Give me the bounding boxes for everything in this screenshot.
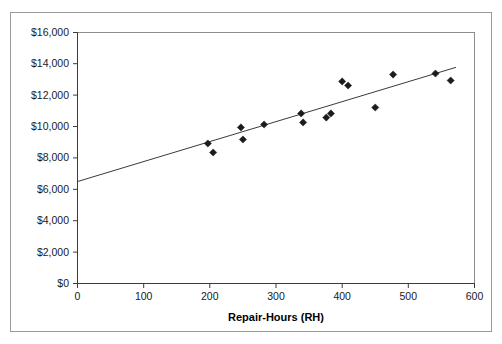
x-tick-label-0: 0 <box>75 290 81 302</box>
data-point <box>260 121 267 128</box>
data-point <box>390 71 397 78</box>
figure-container: $0 $2,000 $4,000 $6,000 $8,000 $10,000 $… <box>0 0 502 344</box>
data-point <box>345 82 352 89</box>
data-point <box>237 124 244 131</box>
data-point <box>372 104 379 111</box>
data-point <box>298 110 305 117</box>
data-point <box>339 78 346 85</box>
x-axis-title: Repair-Hours (RH) <box>228 311 324 323</box>
data-point <box>210 149 217 156</box>
y-tick-label-0: $0 <box>57 277 69 289</box>
x-tick-label-2: 200 <box>201 290 219 302</box>
y-tick-label-2: $4,000 <box>37 214 69 226</box>
y-tick-label-5: $10,000 <box>31 120 69 132</box>
y-tick-label-8: $16,000 <box>31 26 69 38</box>
data-point <box>239 136 246 143</box>
x-tick-label-3: 300 <box>267 290 285 302</box>
x-tick-label-6: 600 <box>466 290 484 302</box>
data-point <box>432 70 439 77</box>
data-points-group <box>204 70 454 156</box>
scatter-chart: $0 $2,000 $4,000 $6,000 $8,000 $10,000 $… <box>0 0 502 344</box>
x-axis-ticks <box>78 284 475 289</box>
plot-area-border <box>78 33 475 284</box>
data-point <box>300 119 307 126</box>
y-tick-label-6: $12,000 <box>31 89 69 101</box>
y-axis-ticks <box>73 33 78 284</box>
data-point <box>447 77 454 84</box>
y-tick-label-7: $14,000 <box>31 57 69 69</box>
x-tick-label-5: 500 <box>400 290 418 302</box>
x-tick-label-1: 100 <box>135 290 153 302</box>
x-tick-label-4: 400 <box>333 290 351 302</box>
y-tick-label-4: $8,000 <box>37 151 69 163</box>
y-tick-label-3: $6,000 <box>37 183 69 195</box>
y-tick-label-1: $2,000 <box>37 246 69 258</box>
